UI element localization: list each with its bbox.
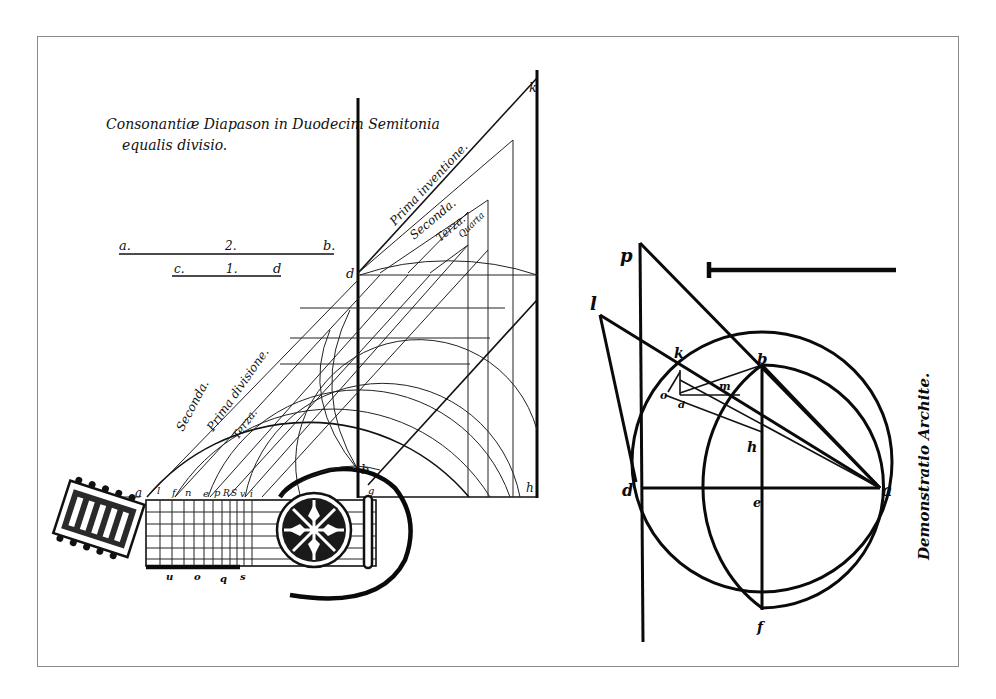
point-label-h: h — [526, 481, 534, 495]
lute-bridge — [364, 496, 372, 568]
point-label-m: m — [719, 380, 731, 393]
point-label-g: g — [368, 485, 374, 496]
fret-label: o — [194, 571, 201, 582]
point-label-d-small: d — [678, 399, 685, 410]
fret-label: e — [203, 488, 209, 499]
arc-label-terza: Terza. — [230, 406, 260, 441]
point-label-h: h — [747, 439, 757, 455]
fret-projection-lines — [120, 245, 537, 497]
lute-rosette — [277, 493, 351, 567]
vertical-line-pd — [640, 243, 643, 642]
fret-label: p — [214, 487, 221, 498]
segment-ab-mid-label: 2. — [224, 239, 236, 253]
point-label-k: k — [674, 345, 684, 361]
fret-label: R — [222, 488, 230, 498]
fret-label: u — [166, 571, 173, 582]
caption-demonstratio-architae: Demonstratio Archite. — [915, 373, 933, 561]
diagram-canvas: Consonantiæ Diapason in Duodecim Semiton… — [0, 0, 996, 699]
segment-ab-end-label: b. — [323, 238, 335, 253]
fret-label: S — [231, 488, 237, 498]
fret-labels-bottom: u o q s — [166, 571, 246, 584]
segment-cd-mid-label: 1. — [226, 262, 237, 276]
horizontal-construction-lines — [280, 275, 537, 364]
point-label-d: d — [346, 266, 354, 281]
point-label-b: b — [757, 350, 768, 368]
archytas-demonstration-diagram: p l k o d m b h d e a f Demonstratio Arc… — [590, 243, 933, 642]
fret-label: l — [157, 485, 160, 496]
line-ld — [600, 315, 636, 482]
lute-pegbox — [51, 474, 146, 563]
line-ok — [668, 372, 680, 392]
title-line-1: Consonantiæ Diapason in Duodecim Semiton… — [106, 116, 440, 132]
line-ka — [680, 380, 880, 488]
title-line-2: equalis divisio. — [122, 137, 227, 153]
point-label-d: d — [622, 481, 633, 500]
fret-label: f — [171, 487, 178, 498]
fret-label: v — [240, 489, 245, 499]
arc-label-prima-divisione: Prima divisione. — [203, 345, 271, 434]
fret-label: s — [240, 571, 246, 582]
segment-cd-end-label: d — [273, 261, 281, 276]
point-label-f: f — [756, 619, 766, 635]
point-label-e: e — [753, 495, 761, 510]
point-label-a: a — [882, 481, 892, 500]
segment-cd-start-label: c. — [174, 262, 185, 276]
fret-labels-top: a l f n e p R S v i — [135, 485, 253, 500]
point-label-o: o — [660, 389, 667, 402]
fret-label: a — [135, 486, 142, 500]
point-label-p: p — [620, 245, 633, 266]
fret-label: n — [185, 487, 191, 498]
fret-label: i — [250, 489, 253, 499]
point-label-l: l — [590, 293, 597, 314]
segment-ab-start-label: a. — [119, 238, 131, 253]
diagonal-triangles — [358, 78, 537, 497]
lute-construction-diagram: Consonantiæ Diapason in Duodecim Semiton… — [51, 70, 537, 598]
fret-label: q — [220, 573, 227, 584]
